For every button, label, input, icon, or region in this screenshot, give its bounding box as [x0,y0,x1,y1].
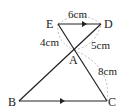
segment-DB [19,24,101,101]
label-D: D [104,17,113,31]
segment-EC [58,24,107,101]
label-E: E [46,17,53,31]
parallel-arrow-ED-icon [82,21,87,27]
length-AD: 5cm [91,39,110,51]
label-C: C [108,95,116,109]
length-EA: 4cm [40,36,59,48]
label-B: B [8,95,16,109]
length-ED: 6cm [68,8,87,20]
length-AC: 8cm [98,65,117,77]
parallel-arrow-BC-icon [60,98,65,104]
label-A: A [69,53,78,67]
geometry-figure: E D A B C 6cm 4cm 5cm 8cm [0,0,126,111]
